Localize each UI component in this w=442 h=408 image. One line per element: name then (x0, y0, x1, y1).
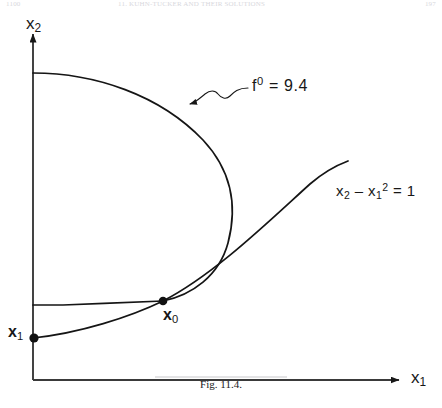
contour-label-equals-value: = 9.4 (264, 77, 308, 94)
point-label-x1-sub: 1 (17, 330, 23, 342)
axis-label-y: x2 (26, 14, 41, 34)
constraint-label-equals-one: = 1 (388, 182, 415, 199)
constraint-label-x: x (336, 182, 344, 199)
figure-caption: Fig. 11.4. (0, 378, 442, 390)
figure-drawing (0, 0, 442, 408)
objective-contour-lower-branch (33, 301, 163, 305)
contour-label-superscript: 0 (257, 75, 264, 87)
point-label-x1: x1 (8, 323, 23, 341)
constraint-equation-label: x2 – x12 = 1 (336, 182, 415, 199)
objective-contour-curve (33, 73, 232, 301)
contour-value-label: f0 = 9.4 (252, 77, 308, 95)
point-label-x0: x0 (163, 306, 178, 324)
point-marker-x1 (29, 333, 38, 342)
figure-container: 1100 11. KUHN-TUCKER AND THEIR SOLUTIONS… (0, 0, 442, 408)
point-label-x0-base: x (163, 306, 172, 323)
point-label-x0-sub: 0 (172, 313, 178, 325)
point-label-x1-base: x (8, 323, 17, 340)
constraint-label-minus-x: – x (350, 182, 376, 199)
axis-label-y-sub: 2 (35, 21, 42, 35)
axis-label-y-base: x (26, 14, 35, 33)
constraint-parabola-curve (33, 161, 348, 338)
point-marker-x0 (159, 297, 168, 306)
contour-leader-squiggle (190, 88, 248, 104)
